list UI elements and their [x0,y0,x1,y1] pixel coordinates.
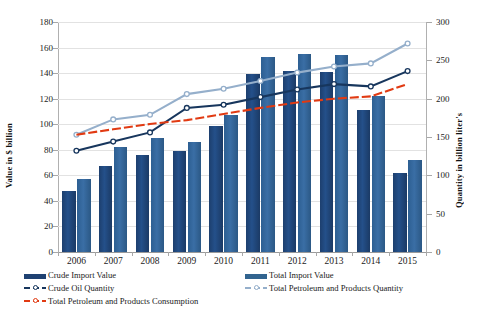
legend-item[interactable]: Crude Import Value [24,270,116,280]
y-tick-label-right: 100 [436,170,462,180]
y-tick-label-right: 0 [436,247,462,257]
data-point-marker [405,69,410,74]
data-point-marker [258,79,263,84]
x-tick-label: 2015 [398,256,417,266]
data-point-marker [258,95,263,100]
y-tick-label-right: 150 [436,132,462,142]
x-tick-mark [316,252,317,256]
y-tick-label-left: 180 [27,17,53,27]
line-series [76,44,407,135]
y-axis-left-title: Value in $ billion [2,96,16,216]
data-point-marker [184,106,189,111]
legend-swatch [245,274,267,279]
data-point-marker [74,148,79,153]
legend-swatch [24,283,46,293]
data-point-marker [368,61,373,66]
x-tick-mark [242,252,243,256]
plot-area [58,22,426,252]
x-tick-label: 2014 [361,256,380,266]
y2-tick-mark [427,252,432,253]
line-series [76,84,407,135]
legend-label: Total Petroleum and Products Quantity [269,283,403,293]
x-tick-label: 2013 [325,256,344,266]
y-tick-label-left: 120 [27,94,53,104]
legend-label: Total Import Value [269,270,334,280]
x-tick-mark [168,252,169,256]
y2-tick-mark [427,137,432,138]
data-point-marker [332,82,337,87]
x-tick-label: 2009 [177,256,196,266]
x-tick-mark [352,252,353,256]
x-tick-mark [58,252,59,256]
x-tick-label: 2008 [141,256,160,266]
legend-item[interactable]: Total Petroleum and Products Consumption [24,296,198,306]
y-tick-label-left: 40 [27,196,53,206]
x-tick-label: 2010 [214,256,233,266]
y2-tick-mark [427,175,432,176]
y-axis-right-title: Quantity in billion liter's [452,96,466,224]
y-tick-label-right: 300 [436,17,462,27]
y-tick-label-right: 200 [436,94,462,104]
data-point-marker [405,41,410,46]
legend-item[interactable]: Total Petroleum and Products Quantity [245,283,403,293]
data-point-marker [221,86,226,91]
data-point-marker [332,64,337,69]
chart-legend: Crude Import ValueCrude Oil QuantityTota… [0,268,477,326]
y-tick-label-left: 140 [27,68,53,78]
y2-tick-mark [427,22,432,23]
data-point-marker [111,117,116,122]
y2-tick-mark [427,60,432,61]
x-tick-mark [426,252,427,256]
lines-layer [58,22,426,252]
legend-swatch [245,283,267,293]
x-tick-mark [389,252,390,256]
line-series [76,71,407,151]
data-point-marker [148,112,153,117]
data-point-marker [111,139,116,144]
data-point-marker [184,92,189,97]
legend-item[interactable]: Total Import Value [245,270,334,280]
legend-swatch [24,296,46,306]
y-tick-label-right: 50 [436,209,462,219]
data-point-marker [221,102,226,107]
data-point-marker [368,84,373,89]
x-tick-label: 2007 [104,256,123,266]
y-tick-label-left: 80 [27,145,53,155]
x-tick-mark [205,252,206,256]
x-tick-label: 2006 [67,256,86,266]
y-tick-label-left: 20 [27,221,53,231]
y2-tick-mark [427,99,432,100]
x-tick-label: 2012 [288,256,307,266]
x-tick-mark [132,252,133,256]
y-tick-label-left: 100 [27,119,53,129]
legend-label: Crude Oil Quantity [48,283,114,293]
x-tick-label: 2011 [251,256,270,266]
x-tick-mark [279,252,280,256]
legend-swatch [24,274,46,279]
y2-tick-mark [427,214,432,215]
data-point-marker [148,130,153,135]
y-tick-label-left: 160 [27,43,53,53]
chart-container: Value in $ billion Quantity in billion l… [0,0,477,328]
data-point-marker [295,70,300,75]
data-point-marker [295,87,300,92]
legend-label: Crude Import Value [48,270,116,280]
legend-item[interactable]: Crude Oil Quantity [24,283,114,293]
x-tick-mark [95,252,96,256]
y-tick-label-left: 60 [27,170,53,180]
y-tick-label-left: 0 [27,247,53,257]
y-tick-label-right: 250 [436,55,462,65]
legend-label: Total Petroleum and Products Consumption [48,296,198,306]
